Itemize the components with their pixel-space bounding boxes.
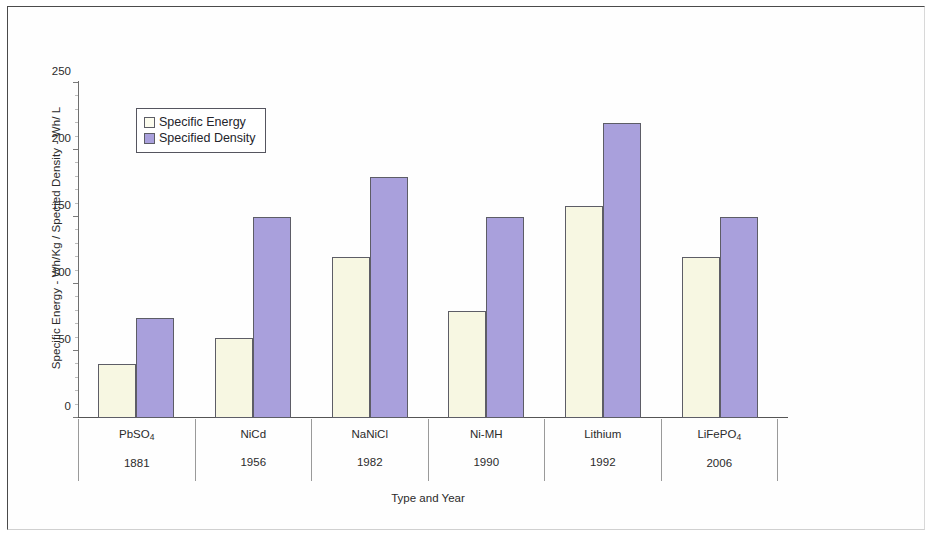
category-cell: PbSO41881 bbox=[78, 419, 196, 481]
bar bbox=[98, 364, 136, 418]
category-name: Ni-MH bbox=[470, 427, 503, 441]
category-name: LiFePO4 bbox=[697, 427, 741, 442]
category-cell: NiCd1956 bbox=[196, 419, 313, 481]
bar-group bbox=[545, 83, 662, 418]
category-name: Lithium bbox=[584, 427, 621, 441]
category-cell: LiFePO42006 bbox=[662, 419, 779, 481]
bar bbox=[682, 257, 720, 418]
legend-label: Specific Energy bbox=[159, 114, 246, 130]
y-axis-title: Specific Energy - Wh/Kg / Specied Densit… bbox=[50, 58, 62, 418]
category-year: 1990 bbox=[473, 455, 499, 469]
legend-label: Specified Density bbox=[159, 130, 256, 146]
legend-swatch-icon bbox=[144, 117, 155, 128]
bar bbox=[565, 206, 603, 418]
category-year: 1982 bbox=[357, 455, 383, 469]
category-year: 1956 bbox=[240, 455, 266, 469]
bar-group bbox=[661, 83, 778, 418]
category-cell: NaNiCl1982 bbox=[312, 419, 429, 481]
category-name: NaNiCl bbox=[352, 427, 388, 441]
y-tick-label: 0 bbox=[65, 400, 71, 412]
category-year: 1992 bbox=[590, 455, 616, 469]
y-tick-label: 150 bbox=[52, 199, 71, 211]
legend-swatch-icon bbox=[144, 133, 155, 144]
category-cell: Lithium1992 bbox=[545, 419, 662, 481]
category-label-table: PbSO41881NiCd1956NaNiCl1982Ni-MH1990Lith… bbox=[78, 419, 778, 481]
x-axis-title: Type and Year bbox=[78, 492, 778, 504]
legend-entry: Specified Density bbox=[144, 130, 256, 146]
y-tick-label: 50 bbox=[58, 333, 71, 345]
bar-chart: Specific Energy - Wh/Kg / Specied Densit… bbox=[0, 0, 932, 543]
bar bbox=[448, 311, 486, 418]
bar bbox=[720, 217, 758, 418]
chart-legend: Specific EnergySpecified Density bbox=[136, 108, 266, 153]
y-tick-label: 100 bbox=[52, 266, 71, 278]
bar bbox=[486, 217, 524, 418]
bar bbox=[136, 318, 174, 419]
bar bbox=[370, 177, 408, 418]
legend-entry: Specific Energy bbox=[144, 114, 256, 130]
y-tick-label: 250 bbox=[52, 65, 71, 77]
category-year: 1881 bbox=[124, 456, 150, 470]
category-year: 2006 bbox=[706, 456, 732, 470]
category-cell: Ni-MH1990 bbox=[429, 419, 546, 481]
bar-group bbox=[428, 83, 545, 418]
bar bbox=[332, 257, 370, 418]
bar bbox=[253, 217, 291, 418]
y-tick-label: 200 bbox=[52, 132, 71, 144]
category-name: NiCd bbox=[240, 427, 266, 441]
category-name: PbSO4 bbox=[119, 427, 154, 442]
bar bbox=[603, 123, 641, 418]
bar bbox=[215, 338, 253, 418]
bar-group bbox=[311, 83, 428, 418]
